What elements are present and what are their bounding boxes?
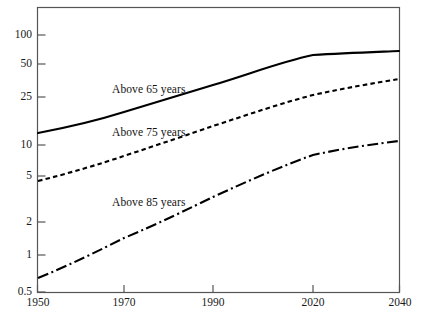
y-tick-label-1: 1 <box>4 249 32 261</box>
x-tick-label-1990: 1990 <box>193 297 233 309</box>
x-tick-label-1950: 1950 <box>18 297 58 309</box>
x-tick-label-2020: 2020 <box>293 297 333 309</box>
x-tick-label-2040: 2040 <box>380 297 420 309</box>
series-label-above-85: Above 85 years <box>112 196 186 208</box>
chart-container: 100 50 25 10 5 2 1 0.5 1950 1970 1990 20… <box>0 0 425 318</box>
chart-canvas <box>0 0 425 318</box>
series-label-above-65: Above 65 years <box>112 83 186 95</box>
y-tick-label-10: 10 <box>4 139 32 151</box>
series-label-above-75: Above 75 years <box>112 126 186 138</box>
x-tick-label-1970: 1970 <box>104 297 144 309</box>
y-tick-label-50: 50 <box>4 58 32 70</box>
y-tick-label-100: 100 <box>4 29 32 41</box>
y-tick-label-5: 5 <box>4 170 32 182</box>
y-tick-label-2: 2 <box>4 216 32 228</box>
plot-frame <box>38 8 400 293</box>
y-tick-label-25: 25 <box>4 91 32 103</box>
